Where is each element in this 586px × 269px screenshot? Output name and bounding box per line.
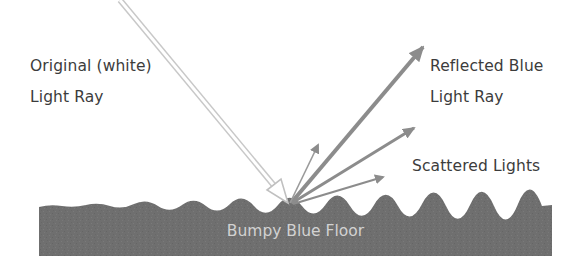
scattered-lights-label: Scattered Lights <box>412 151 540 182</box>
reflected-ray-label: Reflected Blue Light Ray <box>430 51 544 113</box>
original-ray-label-line-2: Light Ray <box>30 82 152 113</box>
reflected-light-ray <box>291 47 423 203</box>
floor-label: Bumpy Blue Floor <box>39 206 552 256</box>
reflected-ray-label-line-1: Reflected Blue <box>430 51 544 82</box>
original-ray-label-line-1: Original (white) <box>30 51 152 82</box>
original-ray-label: Original (white) Light Ray <box>30 51 152 113</box>
reflected-ray-label-line-2: Light Ray <box>430 82 544 113</box>
scattered-ray-upper <box>292 128 414 203</box>
